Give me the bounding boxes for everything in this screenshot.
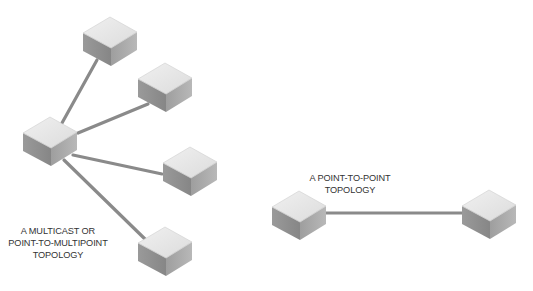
hub-node-cube-icon — [23, 117, 77, 166]
multicast-topology-label: A MULTICAST OR POINT-TO-MULTIPOINT TOPOL… — [4, 225, 112, 261]
point-to-point-nodes — [272, 190, 516, 240]
leaf-node-4-cube-icon — [138, 227, 192, 276]
leaf-node-3-cube-icon — [163, 147, 217, 196]
link-hub-to-leaf-3 — [73, 155, 162, 174]
endpoint-node-b-cube-icon — [462, 190, 516, 239]
leaf-node-1-cube-icon — [83, 17, 137, 66]
multicast-label-line-1: A MULTICAST OR — [4, 225, 112, 237]
multicast-label-line-3: TOPOLOGY — [4, 249, 112, 261]
endpoint-node-a-cube-icon — [272, 191, 326, 240]
p2p-label-line-1: A POINT-TO-POINT — [304, 172, 396, 184]
multicast-label-line-2: POINT-TO-MULTIPOINT — [4, 237, 112, 249]
link-hub-to-leaf-2 — [78, 104, 148, 133]
point-to-point-topology-label: A POINT-TO-POINT TOPOLOGY — [304, 172, 396, 196]
link-hub-to-leaf-1 — [62, 60, 97, 123]
p2p-label-line-2: TOPOLOGY — [304, 184, 396, 196]
